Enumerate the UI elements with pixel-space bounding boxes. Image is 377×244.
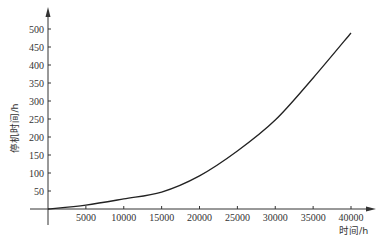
series-line bbox=[48, 33, 351, 209]
y-tick-label: 300 bbox=[29, 96, 44, 107]
x-tick-label: 30000 bbox=[263, 212, 288, 223]
y-tick-label: 350 bbox=[29, 78, 44, 89]
x-tick-label: 40000 bbox=[339, 212, 364, 223]
x-tick-label: 10000 bbox=[111, 212, 136, 223]
y-tick-label: 400 bbox=[29, 60, 44, 71]
x-axis-label: 时间/h bbox=[339, 225, 368, 236]
y-tick-label: 100 bbox=[29, 168, 44, 179]
y-tick-label: 500 bbox=[29, 24, 44, 35]
x-tick-label: 35000 bbox=[301, 212, 326, 223]
y-tick-label: 200 bbox=[29, 132, 44, 143]
y-tick-label: 450 bbox=[29, 42, 44, 53]
x-tick-label: 25000 bbox=[225, 212, 250, 223]
y-axis-label: 停机时间/h bbox=[9, 103, 20, 152]
axes bbox=[30, 7, 376, 225]
y-axis-arrow-icon bbox=[46, 7, 51, 17]
y-tick-label: 150 bbox=[29, 150, 44, 161]
line-chart: 500010000150002000025000300003500040000 … bbox=[0, 0, 377, 244]
x-tick-label: 15000 bbox=[149, 212, 174, 223]
x-tick-label: 5000 bbox=[76, 212, 96, 223]
y-tick-label: 50 bbox=[34, 186, 44, 197]
y-tick-label: 250 bbox=[29, 114, 44, 125]
x-tick-label: 20000 bbox=[187, 212, 212, 223]
x-axis-arrow-icon bbox=[366, 207, 376, 212]
